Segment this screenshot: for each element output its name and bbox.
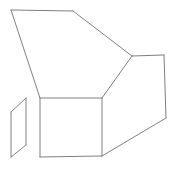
box-front-face xyxy=(40,98,102,157)
drawing-canvas xyxy=(0,0,171,170)
figure-svg xyxy=(0,0,171,170)
